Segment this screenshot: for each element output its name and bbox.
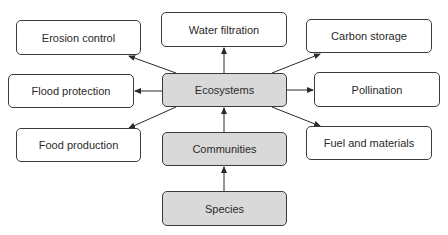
arrow-ecosystems-to-carbon_storage [272,54,320,73]
node-label: Pollination [352,84,403,96]
arrow-ecosystems-to-erosion_control [129,56,176,73]
node-label: Food production [39,139,119,151]
node-pollination: Pollination [314,72,440,107]
node-water-filtration: Water filtration [161,12,287,47]
node-label: Erosion control [42,32,115,44]
node-label: Flood protection [32,85,111,97]
node-flood-protection: Flood protection [8,74,134,108]
node-label: Fuel and materials [324,137,415,149]
node-label: Ecosystems [195,84,254,96]
node-label: Carbon storage [331,30,407,42]
node-carbon-storage: Carbon storage [306,19,432,53]
arrow-ecosystems-to-food_production [129,107,176,128]
node-fuel-and-materials: Fuel and materials [306,126,432,160]
arrow-ecosystems-to-fuel_and_materials [272,107,320,126]
node-label: Communities [192,143,256,155]
node-species: Species [162,191,287,226]
node-food-production: Food production [16,128,141,162]
node-label: Water filtration [189,24,260,36]
node-ecosystems: Ecosystems [162,73,287,107]
node-label: Species [205,203,244,215]
ecosystem-services-diagram: Species Communities Ecosystems Water fil… [0,0,448,235]
node-erosion-control: Erosion control [16,20,141,55]
node-communities: Communities [162,132,287,166]
